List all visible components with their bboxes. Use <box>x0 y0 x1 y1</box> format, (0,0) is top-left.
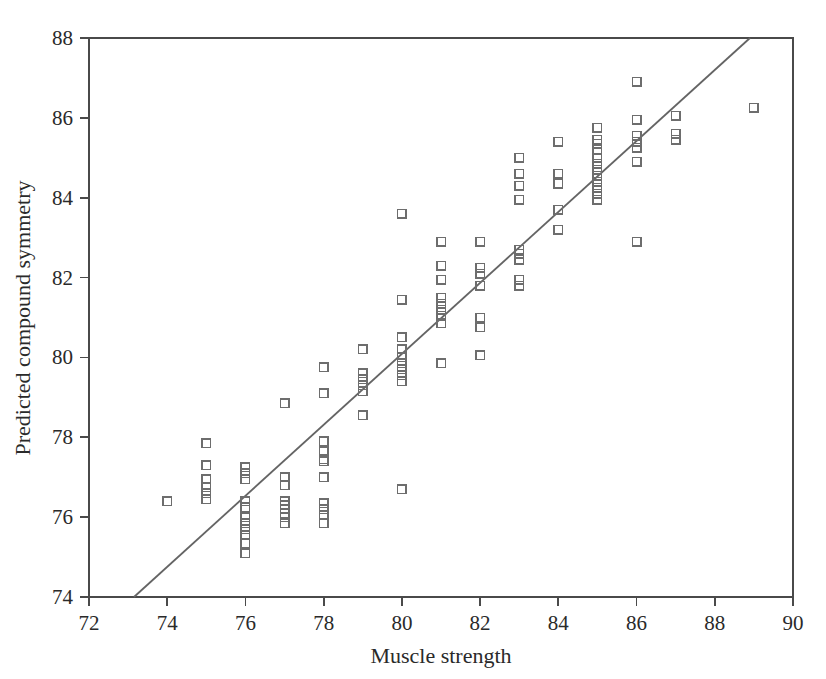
data-point <box>319 473 328 482</box>
x-tick-label: 88 <box>704 611 725 635</box>
y-tick-label: 82 <box>52 266 73 290</box>
data-point <box>437 359 446 368</box>
data-point <box>515 255 524 264</box>
data-point <box>280 473 289 482</box>
data-point <box>437 299 446 308</box>
data-point <box>593 189 602 198</box>
y-tick-label: 80 <box>52 345 73 369</box>
data-point <box>632 237 641 246</box>
data-point <box>554 179 563 188</box>
data-point <box>437 275 446 284</box>
data-point <box>398 209 407 218</box>
data-point <box>280 481 289 490</box>
data-point <box>398 359 407 368</box>
data-point <box>398 485 407 494</box>
x-axis-title: Muscle strength <box>370 643 511 668</box>
y-tick-label: 86 <box>52 106 73 130</box>
data-point <box>319 389 328 398</box>
x-tick-label: 76 <box>235 611 256 635</box>
data-point <box>202 495 211 504</box>
data-point <box>398 345 407 354</box>
x-tick-label: 74 <box>157 611 179 635</box>
data-point <box>398 333 407 342</box>
data-point <box>515 275 524 284</box>
data-point <box>476 323 485 332</box>
data-point <box>241 503 250 512</box>
data-point <box>319 505 328 514</box>
data-point <box>593 183 602 192</box>
data-point <box>241 525 250 534</box>
data-point <box>554 170 563 179</box>
data-point <box>319 437 328 446</box>
data-point <box>359 375 368 384</box>
y-tick-label: 76 <box>52 505 73 529</box>
data-point <box>437 261 446 270</box>
data-point <box>515 195 524 204</box>
y-axis-ticks <box>80 38 89 597</box>
y-tick-label: 84 <box>52 186 74 210</box>
data-point <box>593 124 602 133</box>
data-point <box>632 116 641 125</box>
scatter-plot-figure: 72747678808284868890 7476788082848688 Mu… <box>0 0 826 679</box>
data-point <box>593 154 602 163</box>
data-point <box>241 519 250 528</box>
data-point <box>437 305 446 314</box>
data-point <box>671 112 680 121</box>
data-point <box>398 295 407 304</box>
data-point <box>241 469 250 478</box>
data-point <box>632 78 641 87</box>
data-point <box>437 293 446 302</box>
data-point <box>359 345 368 354</box>
data-point <box>593 160 602 169</box>
data-point <box>632 158 641 167</box>
data-point <box>241 539 250 548</box>
data-point <box>554 225 563 234</box>
y-tick-label: 78 <box>52 425 73 449</box>
data-point <box>319 363 328 372</box>
data-point <box>398 377 407 386</box>
x-tick-label: 80 <box>391 611 412 635</box>
x-tick-label: 86 <box>626 611 647 635</box>
x-axis-ticks <box>89 597 793 606</box>
x-tick-label: 84 <box>548 611 570 635</box>
data-point <box>319 519 328 528</box>
x-tick-label: 78 <box>313 611 334 635</box>
data-point <box>398 365 407 374</box>
data-point <box>241 549 250 558</box>
data-point <box>515 281 524 290</box>
data-point <box>750 104 759 113</box>
data-point <box>476 263 485 272</box>
data-point <box>202 461 211 470</box>
data-point-markers <box>163 78 758 558</box>
y-tick-label: 88 <box>52 26 73 50</box>
data-point <box>515 181 524 190</box>
regression-line <box>134 38 750 597</box>
data-point <box>476 269 485 278</box>
data-point <box>241 531 250 540</box>
y-axis-tick-labels: 7476788082848688 <box>52 26 74 609</box>
data-point <box>671 130 680 139</box>
data-point <box>280 519 289 528</box>
data-point <box>163 497 172 506</box>
data-point <box>437 237 446 246</box>
data-point <box>241 513 250 522</box>
chart-canvas: 72747678808284868890 7476788082848688 Mu… <box>0 0 826 679</box>
data-point <box>515 170 524 179</box>
x-tick-label: 72 <box>79 611 100 635</box>
data-point <box>202 475 211 484</box>
data-point <box>359 369 368 378</box>
data-point <box>476 313 485 322</box>
x-tick-label: 82 <box>470 611 491 635</box>
y-tick-label: 74 <box>52 585 74 609</box>
data-point <box>476 237 485 246</box>
data-point <box>280 399 289 408</box>
data-point <box>398 371 407 380</box>
data-point <box>202 483 211 492</box>
data-point <box>554 138 563 147</box>
data-point <box>319 511 328 520</box>
data-point <box>319 499 328 508</box>
data-point <box>671 136 680 145</box>
data-point <box>359 411 368 420</box>
data-point <box>515 154 524 163</box>
data-point <box>476 351 485 360</box>
